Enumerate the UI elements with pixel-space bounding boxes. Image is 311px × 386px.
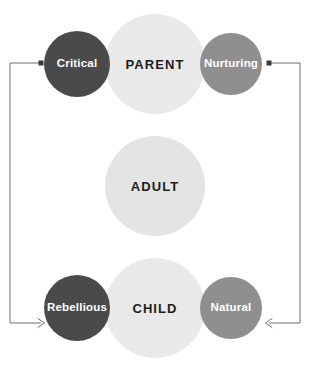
node-rebellious[interactable]: Rebellious (44, 275, 110, 341)
left-connector-arrowhead-icon (38, 319, 45, 328)
right-connector (266, 61, 301, 328)
node-child-label: CHILD (132, 302, 177, 315)
left-connector (10, 61, 45, 328)
node-child[interactable]: CHILD (105, 258, 205, 358)
node-nurturing[interactable]: Nurturing (200, 33, 262, 95)
node-nurturing-label: Nurturing (204, 58, 258, 70)
node-parent-label: PARENT (125, 58, 184, 71)
right-connector-arrowhead-icon (266, 319, 273, 328)
right-connector-dot-icon (267, 61, 272, 66)
node-critical-label: Critical (57, 58, 98, 70)
node-adult[interactable]: ADULT (105, 136, 205, 236)
ego-states-diagram: PARENT Critical Nurturing ADULT CHILD Re… (0, 0, 311, 386)
left-connector-dot-icon (39, 61, 44, 66)
node-adult-label: ADULT (131, 180, 180, 193)
left-connector-path (10, 63, 41, 323)
node-rebellious-label: Rebellious (47, 302, 107, 314)
node-natural[interactable]: Natural (200, 277, 262, 339)
node-parent[interactable]: PARENT (105, 14, 205, 114)
node-critical[interactable]: Critical (44, 31, 110, 97)
right-connector-path (269, 63, 300, 323)
node-natural-label: Natural (210, 302, 251, 314)
